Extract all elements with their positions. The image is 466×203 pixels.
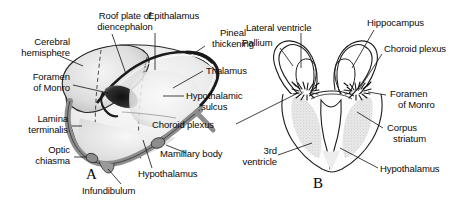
label-line: Lamina <box>28 113 68 124</box>
label-optic-chiasma: Optic chiasma <box>35 144 70 166</box>
label-line: of Monro <box>33 82 70 93</box>
leader-choroid-plexus-b <box>358 54 382 91</box>
leader-hippocampus <box>352 30 374 68</box>
label-line: Corpus <box>387 122 426 133</box>
label-hypothalamus-b: Hypothalamus <box>380 163 440 174</box>
label-line: Choroid plexus <box>384 43 446 54</box>
label-mamillary-body: Mamillary body <box>160 148 222 159</box>
figure-canvas: Roof plate of diencephalon Epithalamus P… <box>0 0 466 203</box>
label-pallium: Pallium <box>242 37 272 48</box>
label-line: Mamillary body <box>160 148 222 159</box>
label-line: Hippocampus <box>367 17 424 28</box>
label-line: diencephalon <box>97 21 152 32</box>
label-line: ventricle <box>243 156 277 167</box>
label-lateral-ventricle: Lateral ventricle <box>246 22 311 33</box>
label-line: Hypothalamus <box>380 163 440 174</box>
label-line: terminalis <box>28 124 68 135</box>
label-line: Foramen <box>33 71 70 82</box>
label-line: chiasma <box>35 155 70 166</box>
label-corpus-striatum: Corpus striatum <box>387 122 426 144</box>
label-line: Thalamus <box>206 65 247 76</box>
label-line: Pallium <box>242 37 272 48</box>
label-cerebral-hemisphere: Cerebral hemisphere <box>21 36 70 58</box>
label-line: Hypothalamus <box>138 168 198 179</box>
label-line: Cerebral <box>21 36 70 47</box>
label-line: 3rd <box>243 145 277 156</box>
label-line: of Monro <box>398 99 435 110</box>
label-line: hemisphere <box>21 47 70 58</box>
label-infundibulum: Infundibulum <box>82 185 135 196</box>
label-third-ventricle: 3rd ventricle <box>243 145 277 167</box>
panel-b-letter: B <box>313 175 323 192</box>
label-hypothalamus-a: Hypothalamus <box>138 168 198 179</box>
panel-a-letter: A <box>86 166 97 183</box>
label-hypothalamic-sulcus: Hypothalamic sulcus <box>186 90 242 112</box>
label-lamina-terminalis: Lamina terminalis <box>28 113 68 135</box>
label-line: Epithalamus <box>148 10 199 21</box>
label-foramen-of-monro-a: Foramen of Monro <box>33 71 70 93</box>
label-line: sulcus <box>186 101 242 112</box>
label-epithalamus: Epithalamus <box>148 10 199 21</box>
label-line: Choroid plexus <box>152 119 214 130</box>
label-line: Infundibulum <box>82 185 135 196</box>
label-line: Roof plate of <box>97 10 152 21</box>
label-choroid-plexus-b: Choroid plexus <box>384 43 446 54</box>
label-hippocampus: Hippocampus <box>367 17 424 28</box>
label-thalamus: Thalamus <box>206 65 247 76</box>
leader-pallium <box>280 48 293 66</box>
label-line: Optic <box>35 144 70 155</box>
label-roof-plate-of-diencephalon: Roof plate of diencephalon <box>97 10 152 32</box>
label-line: Hypothalamic <box>186 90 242 101</box>
label-line: Lateral ventricle <box>246 22 311 33</box>
label-foramen-of-monro-b: Foramen of Monro <box>390 88 435 110</box>
leader-infundibulum <box>108 169 121 184</box>
label-line: Foramen <box>390 88 435 99</box>
label-choroid-plexus-a: Choroid plexus <box>152 119 214 130</box>
label-line: striatum <box>393 133 426 144</box>
